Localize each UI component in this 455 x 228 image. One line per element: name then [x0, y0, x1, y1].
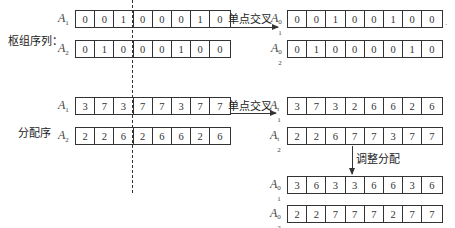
gene-cell: 3: [76, 98, 95, 114]
gene-cell: 2: [288, 206, 307, 222]
gene-cell: 1: [307, 41, 326, 57]
section2-label: 分配序: [18, 124, 51, 140]
gene-cell: 0: [365, 11, 384, 27]
gene-cell: 3: [114, 98, 133, 114]
row-label-s2-left-a2: A2: [58, 129, 69, 146]
gene-cell: 7: [365, 128, 384, 144]
gene-cell: 7: [210, 98, 229, 114]
gene-cell: 0: [134, 41, 153, 57]
arrow-right-icon: [230, 27, 278, 28]
row-label-s2-right-a2: At2: [270, 129, 277, 141]
gene-cell: 0: [76, 11, 95, 27]
gene-cell: 0: [114, 41, 133, 57]
gene-cell: 2: [384, 206, 403, 222]
gene-cell: 6: [384, 177, 403, 193]
row-label-s1-right-a1: A01: [271, 12, 278, 24]
gene-cell: 3: [326, 177, 345, 193]
gene-cell: 1: [114, 11, 133, 27]
gene-cell: 2: [134, 128, 153, 144]
gene-cell: 2: [95, 128, 114, 144]
gene-cell: 7: [95, 98, 114, 114]
gene-cell: 1: [172, 41, 191, 57]
gene-cell: 6: [326, 128, 345, 144]
row-label-s1-right-a2: A02: [271, 42, 278, 54]
sequence-row-s1-right-a2: 01000010: [287, 40, 443, 58]
operation-label-s1: 单点交叉: [228, 10, 272, 26]
gene-cell: 0: [346, 11, 365, 27]
gene-cell: 6: [422, 98, 441, 114]
gene-cell: 2: [191, 128, 210, 144]
gene-cell: 6: [172, 128, 191, 144]
operation-label-s2: 单点交叉: [228, 97, 272, 113]
arrow-down-icon: [352, 146, 353, 174]
gene-cell: 1: [191, 11, 210, 27]
sequence-row-s2-right-a2: 22677377: [287, 127, 443, 145]
row-label-s1-left-a2: A2: [58, 42, 69, 59]
trailing-mark: .: [445, 16, 448, 27]
gene-cell: 6: [307, 177, 326, 193]
sequence-row-s1-right-a1: 00100100: [287, 10, 443, 28]
gene-cell: 2: [288, 128, 307, 144]
gene-cell: 7: [403, 206, 422, 222]
gene-cell: 7: [365, 206, 384, 222]
gene-cell: 6: [365, 98, 384, 114]
gene-cell: 7: [422, 206, 441, 222]
gene-cell: 0: [210, 11, 229, 27]
row-label-s2-right-a1: At1: [270, 99, 277, 111]
gene-cell: 0: [288, 41, 307, 57]
gene-cell: 3: [326, 98, 345, 114]
gene-cell: 0: [153, 41, 172, 57]
gene-cell: 7: [307, 98, 326, 114]
gene-cell: 3: [403, 177, 422, 193]
gene-cell: 0: [210, 41, 229, 57]
gene-cell: 3: [384, 128, 403, 144]
sequence-row-s2-left-a2: 22626626: [75, 127, 231, 145]
gene-cell: 0: [403, 11, 422, 27]
gene-cell: 7: [422, 128, 441, 144]
gene-cell: 1: [326, 11, 345, 27]
gene-cell: 0: [288, 11, 307, 27]
section1-label: 枢组序列：: [8, 32, 63, 48]
gene-cell: 7: [326, 206, 345, 222]
gene-cell: 0: [365, 41, 384, 57]
gene-cell: 7: [191, 98, 210, 114]
sequence-row-s1-left-a1: 00100010: [75, 10, 231, 28]
gene-cell: 0: [307, 11, 326, 27]
gene-cell: 7: [346, 128, 365, 144]
sequence-row-s1-left-a2: 01000100: [75, 40, 231, 58]
gene-cell: 2: [346, 98, 365, 114]
gene-cell: 3: [288, 98, 307, 114]
gene-cell: 1: [384, 11, 403, 27]
gene-cell: 0: [191, 41, 210, 57]
sequence-row-s2-left-a1: 37377377: [75, 97, 231, 115]
gene-cell: 6: [114, 128, 133, 144]
gene-cell: 0: [326, 41, 345, 57]
row-label-adjusted-a2: A02: [270, 207, 277, 219]
gene-cell: 1: [95, 41, 114, 57]
gene-cell: 0: [384, 41, 403, 57]
gene-cell: 6: [153, 128, 172, 144]
row-label-s2-left-a1: A1: [58, 99, 69, 116]
gene-cell: 7: [153, 98, 172, 114]
gene-cell: 0: [95, 11, 114, 27]
gene-cell: 6: [422, 177, 441, 193]
gene-cell: 0: [422, 11, 441, 27]
row-label-adjusted-a1: A01: [270, 178, 277, 190]
gene-cell: 2: [307, 206, 326, 222]
gene-cell: 7: [346, 206, 365, 222]
gene-cell: 1: [403, 41, 422, 57]
adjust-label: 调整分配: [356, 150, 400, 166]
gene-cell: 6: [384, 98, 403, 114]
gene-cell: 0: [153, 11, 172, 27]
gene-cell: 3: [288, 177, 307, 193]
sequence-row-adjusted-a2: 22777277: [287, 205, 443, 223]
gene-cell: 6: [210, 128, 229, 144]
gene-cell: 2: [403, 98, 422, 114]
sequence-row-s2-right-a1: 37326626: [287, 97, 443, 115]
gene-cell: 0: [172, 11, 191, 27]
gene-cell: 3: [172, 98, 191, 114]
gene-cell: 3: [346, 177, 365, 193]
gene-cell: 7: [134, 98, 153, 114]
gene-cell: 2: [76, 128, 95, 144]
gene-cell: 0: [422, 41, 441, 57]
